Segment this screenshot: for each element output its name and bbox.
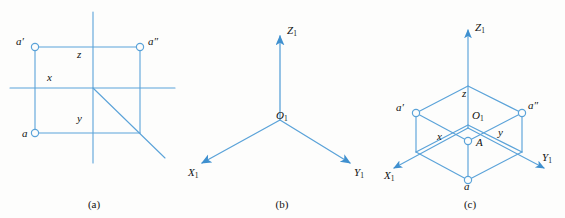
panel-a: a′ a″ a z x y (a) [0,0,188,218]
label-a-double-prime: a″ [148,36,158,47]
point-a-prime-marker [412,109,419,116]
panel-a-drawing [0,0,188,218]
label-x1-axis-letter: X [188,166,195,178]
label-x1-axis-letter: X [384,169,391,181]
label-y1-axis: Y1 [354,167,364,178]
label-origin-letter: O [472,109,480,121]
label-a: a [464,181,470,192]
label-z1-axis-subscript: 1 [481,26,485,35]
label-origin-subscript: 1 [480,114,484,123]
label-x1-axis-subscript: 1 [195,171,199,180]
point-markers [31,43,143,136]
label-z1-axis: Z1 [475,22,485,33]
label-x1-axis: X1 [188,167,198,178]
box-bottom-front-left-edge [416,152,468,180]
label-origin: O1 [276,110,288,121]
y1-axis-line [280,120,350,163]
label-origin: O1 [472,110,484,121]
caption-c: (c) [376,198,564,210]
label-y: y [77,113,82,124]
caption-a: (a) [0,198,188,210]
x1-axis-line [394,128,468,168]
panel-c: Z1 X1 Y1 O1 a′ a″ a A z x y (c) [376,0,564,218]
label-z: z [462,88,466,99]
point-a-marker [31,129,38,136]
box-bottom-front-right-edge [468,152,522,180]
caption-b: (b) [188,198,376,210]
label-a-double-prime: a″ [528,100,538,111]
point-A-marker [464,137,471,144]
box-bottom-rear-left-edge [416,125,468,152]
panel-b: Z1 O1 X1 Y1 (b) [188,0,376,218]
label-y: y [498,127,503,138]
label-z: z [77,49,81,60]
label-point-A: A [476,137,483,148]
label-y1-axis-subscript: 1 [360,171,364,180]
point-a-double-prime-marker [136,43,143,50]
label-a: a [22,128,28,139]
box-top-front-left-edge [416,113,468,141]
box-top-rear-left-edge [416,86,468,113]
label-y1-axis-subscript: 1 [548,156,552,165]
label-z1-axis-subscript: 1 [293,29,297,38]
label-x: x [47,72,52,83]
label-a-prime: a′ [16,36,24,47]
label-x1-axis-subscript: 1 [391,174,395,183]
y1-axis-line [468,128,544,168]
label-origin-letter: O [276,109,284,121]
label-x: x [437,131,442,142]
miter-diagonal-line [93,88,165,158]
point-a-double-prime-marker [518,109,525,116]
figure-container: a′ a″ a z x y (a) Z1 O1 X1 Y1 (b) [0,0,565,218]
label-x1-axis: X1 [384,170,394,181]
label-a-prime: a′ [396,102,404,113]
label-y1-axis: Y1 [542,152,552,163]
x1-axis-line [202,120,280,163]
label-origin-subscript: 1 [284,114,288,123]
point-a-prime-marker [31,43,38,50]
label-z1-axis: Z1 [287,25,297,36]
